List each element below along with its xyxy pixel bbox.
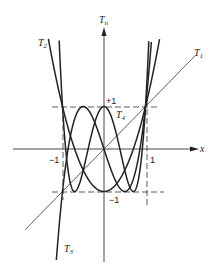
- curve-label-t3: T3: [64, 243, 74, 256]
- tick-label-x-plus-one: 1: [150, 155, 155, 165]
- y-axis-arrow-icon: [102, 27, 107, 36]
- tick-label-x-minus-one: −1: [49, 155, 59, 165]
- x-axis-label: x: [199, 143, 205, 154]
- tick-label-y-minus-one: −1: [109, 195, 119, 205]
- x-axis-arrow-icon: [190, 147, 199, 152]
- curve-group: [25, 39, 195, 260]
- tick-label-y-plus-one: +1: [106, 96, 116, 106]
- curve-label-t2: T2: [38, 37, 48, 50]
- y-axis-label: Tn: [99, 14, 109, 27]
- chebyshev-diagram: x Tn +1 −1 −1 1 T1 T2 T3 T4: [0, 0, 214, 270]
- curve-label-t4: T4: [116, 109, 126, 122]
- dashed-box: [52, 100, 164, 205]
- curve-label-t1: T1: [194, 47, 203, 60]
